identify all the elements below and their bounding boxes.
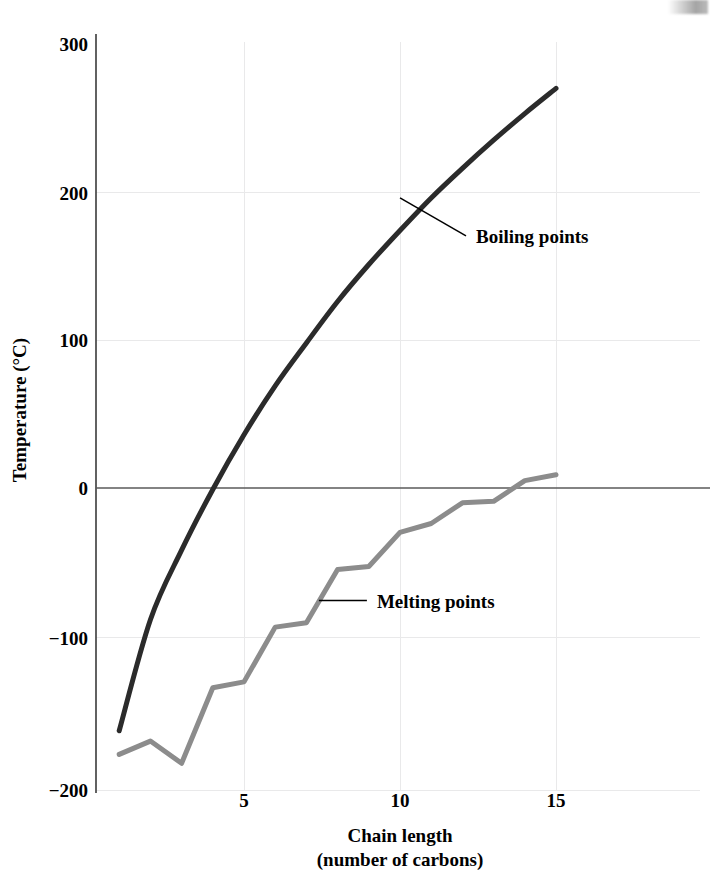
x-tick-label-5: 5 — [239, 790, 249, 811]
boiling-points-line — [119, 88, 556, 730]
x-tick-label-15: 15 — [547, 790, 566, 811]
series-melting-points — [119, 475, 556, 764]
y-tick-label-100: 100 — [60, 330, 89, 351]
y-tick-label-neg200: −200 — [49, 780, 88, 801]
x-tick-labels: 5 10 15 — [239, 790, 565, 811]
gridlines — [96, 42, 700, 790]
series-boiling-points — [119, 88, 556, 730]
y-tick-labels: 300 200 100 0 −100 −200 — [49, 34, 88, 801]
boiling-points-label: Boiling points — [476, 226, 588, 247]
y-tick-label-0: 0 — [79, 478, 89, 499]
x-axis-title-line2: (number of carbons) — [317, 849, 483, 871]
chart-figure: 300 200 100 0 −100 −200 5 10 15 Temperat… — [0, 0, 710, 875]
melting-points-line — [119, 475, 556, 764]
x-tick-label-10: 10 — [391, 790, 410, 811]
line-chart: 300 200 100 0 −100 −200 5 10 15 Temperat… — [0, 0, 710, 875]
y-axis-title: Temperature (°C) — [9, 338, 31, 482]
y-tick-label-200: 200 — [60, 183, 89, 204]
y-tick-label-300: 300 — [60, 34, 89, 55]
y-tick-label-neg100: −100 — [49, 628, 88, 649]
melting-points-label: Melting points — [377, 591, 495, 612]
x-axis-title-line1: Chain length — [347, 825, 452, 846]
